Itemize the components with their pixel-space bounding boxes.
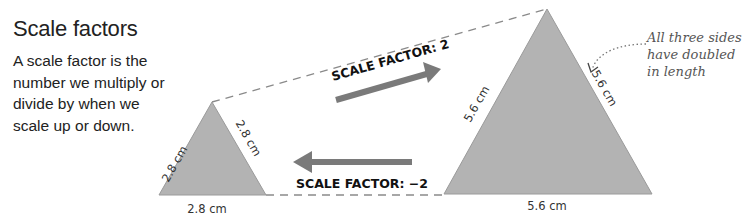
reduce-scale-factor-label: SCALE FACTOR: −2 (296, 176, 428, 191)
small-base-label: 2.8 cm (187, 202, 226, 216)
reduce-arrow-icon (293, 151, 412, 173)
annotation-note: All three sides have doubled in length (647, 29, 747, 80)
large-base-label: 5.6 cm (527, 199, 566, 213)
annotation-pointer (592, 44, 646, 70)
scale-diagram: 2.8 cm 2.8 cm 2.8 cm 5.6 cm 5.6 cm 5.6 c… (0, 0, 747, 221)
